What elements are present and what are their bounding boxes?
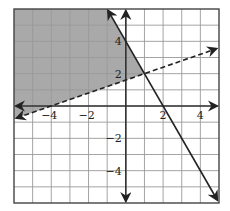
y-tick-label: 2 (115, 68, 122, 81)
y-tick-label: −2 (106, 132, 122, 145)
y-tick-label: 4 (115, 35, 122, 48)
y-tick-label: −4 (106, 165, 122, 178)
x-tick-label: 2 (160, 109, 167, 122)
coordinate-plane: −4−224 42−2−4 (0, 0, 230, 211)
x-tick-label: −4 (41, 109, 57, 122)
x-tick-label: −2 (78, 109, 94, 122)
x-tick-label: 4 (197, 109, 204, 122)
